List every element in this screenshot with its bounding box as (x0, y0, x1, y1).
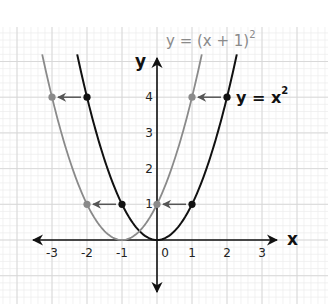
y-axis-label: y (135, 51, 146, 71)
x-tick-label: 0 (161, 246, 169, 260)
x-tick-label: 1 (188, 246, 196, 260)
equation-base-main: y = x (236, 88, 282, 107)
x-tick-label: -3 (46, 246, 58, 260)
base-point (83, 94, 90, 101)
y-tick-label: 4 (145, 90, 153, 104)
x-axis-label: x (287, 229, 298, 249)
grid (0, 27, 328, 304)
y-tick-label: 1 (145, 197, 153, 211)
equation-base-exponent: 2 (281, 85, 288, 96)
y-tick-label: 2 (145, 162, 153, 176)
x-tick-label: 3 (258, 246, 266, 260)
shifted-point (153, 201, 160, 208)
base-point (118, 201, 125, 208)
shifted-point (188, 94, 195, 101)
x-tick-label: -1 (116, 246, 128, 260)
equation-shifted-main: y = (x + 1) (166, 32, 249, 50)
base-point (188, 201, 195, 208)
equation-shifted-exponent: 2 (249, 29, 255, 40)
data-points (48, 94, 230, 208)
shifted-point (83, 201, 90, 208)
x-tick-label: -2 (81, 246, 93, 260)
equation-shifted-parabola: y = (x + 1)2 (166, 29, 256, 50)
graph: -3-2-101231234 y x y = (x + 1)2 y = x2 (0, 0, 328, 304)
x-tick-label: 2 (223, 246, 231, 260)
shift-arrows (58, 97, 221, 204)
equation-base-parabola: y = x2 (236, 85, 288, 107)
y-tick-label: 3 (145, 126, 153, 140)
tick-labels: -3-2-101231234 (46, 90, 266, 260)
base-point (223, 94, 230, 101)
shifted-point (48, 94, 55, 101)
